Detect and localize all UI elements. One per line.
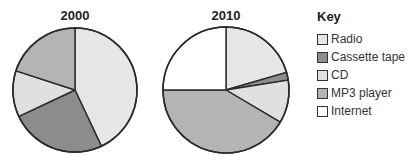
legend-swatch-internet [317,106,328,117]
legend-label: Internet [331,104,372,118]
legend-title: Key [317,9,405,24]
pie-slice-internet [163,27,226,90]
legend-label: Cassette tape [331,50,405,64]
legend-item-radio: Radio [317,30,405,48]
legend-item-cassette-tape: Cassette tape [317,48,405,66]
legend-item-cd: CD [317,66,405,84]
legend-swatch-radio [317,34,328,45]
legend-item-internet: Internet [317,102,405,120]
legend-label: Radio [331,32,362,46]
legend-label: CD [331,68,348,82]
legend-item-mp3-player: MP3 player [317,84,405,102]
legend-swatch-cd [317,70,328,81]
legend-label: MP3 player [331,86,392,100]
legend: Key Radio Cassette tape CD MP3 player In… [317,9,405,120]
legend-swatch-mp3-player [317,88,328,99]
legend-swatch-cassette-tape [317,52,328,63]
